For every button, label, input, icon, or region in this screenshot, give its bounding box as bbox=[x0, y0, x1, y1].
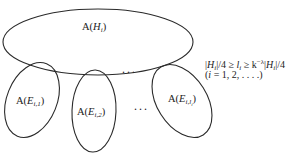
ellipsis-top: ... bbox=[122, 62, 137, 76]
child-label-2: A(Ei,2) bbox=[77, 106, 106, 119]
child-label-li: A(Ei,li) bbox=[168, 93, 197, 107]
ellipsis-bottom: ... bbox=[134, 99, 149, 113]
parent-label: A(Hi) bbox=[82, 21, 107, 34]
child-label-1: A(Ei,1) bbox=[16, 95, 45, 108]
index-range-line-2: (i = 1, 2, . . . .) bbox=[205, 69, 263, 80]
